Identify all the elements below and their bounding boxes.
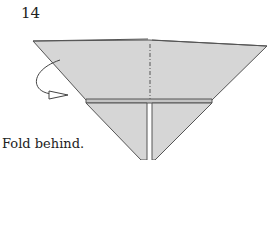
lower-left-flap [86,103,147,160]
fold-band [86,99,212,103]
arrow-head-icon [49,91,68,99]
lower-right-flap [152,103,212,160]
instruction-caption: Fold behind. [2,136,84,151]
